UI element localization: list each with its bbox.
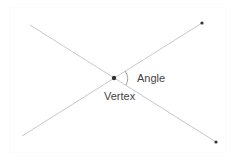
vertex-point (112, 76, 116, 80)
angle-diagram: Angle Vertex (0, 0, 238, 160)
vertex-label: Vertex (104, 90, 136, 102)
line-b (22, 23, 202, 136)
endpoint-top-right (200, 21, 203, 24)
endpoint-bottom-right (214, 140, 217, 143)
angle-arc (125, 71, 128, 85)
line-a (30, 25, 216, 142)
angle-label: Angle (137, 72, 165, 84)
